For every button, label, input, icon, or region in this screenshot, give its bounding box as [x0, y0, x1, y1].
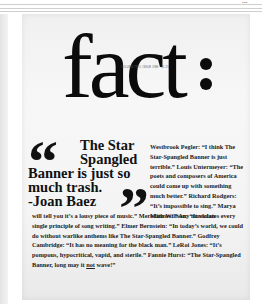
top-rule	[0, 11, 262, 12]
issue-line: VOLUME TWO, ISSUE ONE · $1.25	[121, 66, 169, 69]
quotes-bottom-main: will tell you it’s a lousy piece of musi…	[32, 212, 243, 268]
magazine-cover: fact VOLUME TWO, ISSUE ONE · $1.25 “ The…	[22, 14, 250, 300]
pull-quote-attribution: -Joan Baez	[28, 195, 96, 209]
masthead-colon-icon	[200, 58, 214, 100]
top-label: ▪▪▪	[242, 0, 248, 5]
quotes-bottom-end: wave!”	[95, 261, 115, 268]
quotes-bottom-underlined: not	[86, 261, 95, 268]
top-rule	[0, 8, 262, 9]
quotes-bottom-text: will tell you it’s a lousy piece of musi…	[32, 211, 244, 270]
top-rule	[0, 4, 262, 5]
quotes-side-column: Westbrook Pegler: “I think The Star-Span…	[150, 142, 246, 220]
adjacent-page-edge	[0, 14, 8, 304]
